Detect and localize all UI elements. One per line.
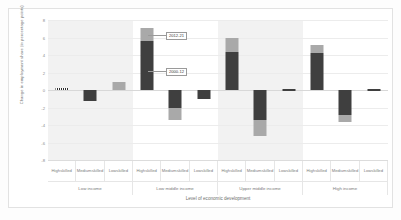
x-axis-category-cell: Mediumskilled (331, 161, 359, 182)
x-axis-category-label-line: Low (279, 168, 287, 173)
stacked-bar[interactable] (311, 20, 324, 160)
stacked-bar[interactable] (367, 20, 380, 160)
x-axis-category-label-line: skilled (116, 168, 128, 173)
y-axis-title-text: Change in employment share (in percentag… (19, 0, 25, 115)
x-axis-category-label-line: skilled (201, 168, 213, 173)
bar-column[interactable] (105, 20, 133, 160)
chart-figure: Change in employment share (in percentag… (0, 0, 401, 220)
y-axis-tick-label: 6 (43, 35, 45, 40)
x-axis-category-label-line: skilled (286, 168, 298, 173)
x-axis-category-label-line: Medium (162, 168, 177, 173)
bar-segment-2000-12 (254, 90, 267, 120)
x-axis-category-cell: Highskilled (48, 161, 76, 182)
bar-column[interactable] (218, 20, 246, 160)
bar-segment-2000-12 (141, 41, 154, 90)
bar-segment-2000-12 (367, 89, 380, 91)
bar-segment-2012-21 (226, 38, 239, 52)
x-axis-category-label-line: High (222, 168, 231, 173)
stacked-bar[interactable] (254, 20, 267, 160)
x-axis-category-label-line: High (52, 168, 61, 173)
stacked-bar[interactable] (197, 20, 210, 160)
x-axis-category-cell: Lowskilled (105, 161, 133, 182)
x-axis-category-label-line: skilled (145, 168, 157, 173)
y-axis-tick-label: -4 (41, 123, 45, 128)
stacked-bar[interactable] (226, 20, 239, 160)
x-axis-category-label-line: skilled (230, 168, 242, 173)
x-axis-category-label-line: Medium (332, 168, 347, 173)
bar-segment-2000-12 (311, 53, 324, 90)
x-axis-title: Level of economic development (48, 196, 388, 201)
x-axis-category-cell: Highskilled (133, 161, 161, 182)
x-axis-category-label-line: Medium (247, 168, 262, 173)
callout-leader-line (148, 71, 166, 72)
bar-segment-2000-12 (169, 90, 182, 108)
bar-column[interactable] (360, 20, 388, 160)
stacked-bar[interactable] (339, 20, 352, 160)
x-axis-category-cell: Mediumskilled (246, 161, 274, 182)
stacked-bar[interactable] (141, 20, 154, 160)
bar-column[interactable] (303, 20, 331, 160)
stacked-bar[interactable] (169, 20, 182, 160)
bar-segment-2000-12 (84, 90, 97, 101)
x-axis-category-label-line: skilled (315, 168, 327, 173)
x-axis-label-table: HighskilledMediumskilledLowskilledHighsk… (48, 160, 388, 194)
x-axis-category-cell: Highskilled (218, 161, 246, 182)
x-axis-category-cell: Lowskilled (190, 161, 218, 182)
x-axis-category-label-line: skilled (60, 168, 72, 173)
y-axis-title: Change in employment share (in percentag… (19, 0, 25, 115)
x-axis-group-label: Low middle income (133, 182, 218, 195)
bar-segment-2012-21 (311, 45, 324, 54)
x-axis-category-label-line: Low (364, 168, 372, 173)
x-axis-category-label-line: skilled (92, 168, 104, 173)
x-axis-category-cell: Mediumskilled (161, 161, 189, 182)
stacked-bar[interactable] (56, 20, 69, 160)
plot-area: 86420-2-4-6-82012-212000-12 (48, 20, 388, 160)
x-axis-category-label-line: skilled (262, 168, 274, 173)
bar-segment-2012-21 (169, 108, 182, 120)
y-axis-tick-label: 0 (43, 88, 45, 93)
bar-segment-2000-12 (282, 89, 295, 91)
x-axis-group-label: High income (303, 182, 388, 195)
y-axis-tick-label: 2 (43, 70, 45, 75)
stacked-bar[interactable] (282, 20, 295, 160)
bar-column[interactable] (190, 20, 218, 160)
bar-segment-2000-12 (56, 88, 69, 90)
x-axis-category-label-line: skilled (347, 168, 359, 173)
x-axis-group-label: Low income (48, 182, 133, 195)
series-callout-label[interactable]: 2000-12 (166, 68, 187, 76)
bar-column[interactable] (48, 20, 76, 160)
y-axis-tick-label: -8 (41, 158, 45, 163)
x-axis-category-label-line: Low (194, 168, 202, 173)
bar-segment-2012-21 (112, 82, 125, 90)
x-axis-category-label-line: High (307, 168, 316, 173)
bar-segment-2000-12 (197, 90, 210, 99)
bar-segment-2012-21 (339, 115, 352, 122)
bar-column[interactable] (161, 20, 189, 160)
x-axis-category-label-line: High (137, 168, 146, 173)
x-axis-category-label-line: skilled (177, 168, 189, 173)
x-axis-category-label-line: skilled (371, 168, 383, 173)
bar-column[interactable] (331, 20, 359, 160)
series-callout-label[interactable]: 2012-21 (166, 32, 187, 40)
x-axis-category-cell: Lowskilled (360, 161, 388, 182)
bar-segment-2000-12 (226, 52, 239, 91)
x-axis-category-label-line: Medium (77, 168, 92, 173)
x-axis-category-cell: Lowskilled (275, 161, 303, 182)
bar-segment-2012-21 (254, 120, 267, 136)
callout-leader-line (148, 35, 166, 36)
x-axis-group-label: Upper middle income (218, 182, 303, 195)
x-axis-category-label-line: Low (109, 168, 117, 173)
stacked-bar[interactable] (84, 20, 97, 160)
bar-segment-2000-12 (339, 90, 352, 115)
y-axis-tick-label: 4 (43, 53, 45, 58)
bar-column[interactable] (76, 20, 104, 160)
y-axis-tick-label: 8 (43, 18, 45, 23)
x-axis-category-row: HighskilledMediumskilledLowskilledHighsk… (48, 161, 388, 182)
bar-column[interactable] (133, 20, 161, 160)
bar-column[interactable] (246, 20, 274, 160)
x-axis-category-cell: Mediumskilled (76, 161, 104, 182)
stacked-bar[interactable] (112, 20, 125, 160)
x-axis-category-cell: Highskilled (303, 161, 331, 182)
bar-column[interactable] (275, 20, 303, 160)
y-axis-tick-label: -6 (41, 140, 45, 145)
